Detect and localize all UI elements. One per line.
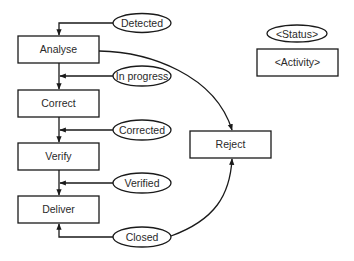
- activity-label: Deliver: [42, 203, 75, 215]
- activity-correct[interactable]: Correct: [18, 90, 99, 117]
- status-detected[interactable]: Detected: [113, 14, 171, 33]
- activity-analyse[interactable]: Analyse: [18, 36, 99, 63]
- activity-label: Correct: [41, 97, 76, 109]
- status-label: Closed: [126, 231, 159, 243]
- legend-status: <Status>: [267, 25, 327, 42]
- edge-detected-analyse: [59, 23, 113, 35]
- status-label: In progress: [116, 70, 169, 82]
- activity-deliver[interactable]: Deliver: [18, 196, 99, 223]
- edge-analyse-reject: [99, 51, 232, 130]
- status-verified[interactable]: Verified: [113, 173, 171, 193]
- activity-verify[interactable]: Verify: [18, 143, 99, 170]
- status-corrected[interactable]: Corrected: [113, 120, 171, 140]
- activity-label: Verify: [45, 150, 72, 162]
- flow-diagram: Analyse Correct Verify Deliver Reject De…: [0, 0, 354, 261]
- edge-closed-reject: [171, 159, 232, 236]
- activity-label: Analyse: [40, 43, 78, 55]
- edge-closed-deliver: [59, 224, 113, 237]
- status-closed[interactable]: Closed: [113, 227, 171, 247]
- status-label: Corrected: [119, 124, 165, 136]
- legend-activity: <Activity>: [257, 49, 338, 76]
- legend-status-label: <Status>: [276, 28, 318, 40]
- activity-label: Reject: [216, 138, 246, 150]
- legend: <Status> <Activity>: [257, 25, 338, 76]
- legend-activity-label: <Activity>: [275, 56, 321, 68]
- status-label: Verified: [124, 177, 159, 189]
- status-label: Detected: [121, 17, 163, 29]
- activity-reject[interactable]: Reject: [190, 131, 271, 158]
- status-in-progress[interactable]: In progress: [113, 66, 171, 86]
